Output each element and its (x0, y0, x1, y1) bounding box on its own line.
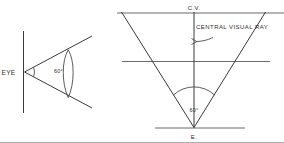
eye-angle-arc (34, 67, 35, 77)
left-cone-ray (122, 12, 195, 128)
field-of-vision-right-arc (68, 50, 73, 98)
cone-of-vision-elevation-group: C.V. CENTRAL VISUAL RAY 60° E. (117, 5, 284, 141)
cv-label: C.V. (188, 5, 201, 11)
lower-visual-ray (25, 72, 93, 108)
perspective-cone-of-vision-figure: EYE 60° C.V. (0, 0, 284, 143)
plan-angle-label: 60° (54, 68, 63, 74)
eye-label: EYE (2, 69, 16, 76)
field-of-vision-left-arc (63, 50, 68, 98)
upper-visual-ray (25, 36, 93, 72)
central-visual-ray-leader (197, 38, 214, 42)
eye-plan-view-group: EYE 60° (2, 31, 93, 113)
central-visual-ray-label: CENTRAL VISUAL RAY (196, 24, 268, 30)
elevation-angle-label: 60° (190, 107, 199, 113)
diagram-canvas: EYE 60° C.V. (0, 0, 284, 143)
station-point-label: E. (191, 134, 197, 140)
